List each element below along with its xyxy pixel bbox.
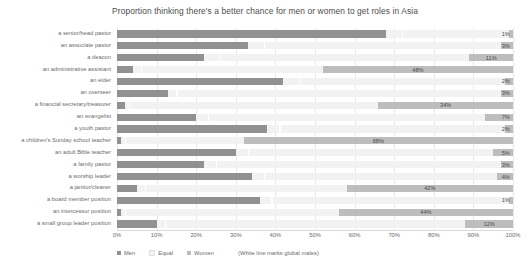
global-males-marker — [248, 149, 249, 156]
x-tick-label: 0% — [113, 232, 121, 238]
bar-segment-men[interactable] — [117, 114, 196, 121]
category-label: a board member position — [47, 197, 111, 203]
legend-item-equal[interactable]: Equal — [149, 250, 173, 256]
bar-segment-equal[interactable] — [168, 90, 501, 97]
bar-value-label: 4% — [502, 174, 510, 180]
bar-value-label: 2% — [502, 126, 510, 132]
category-label: an evangelist — [77, 114, 111, 120]
bar-segment-men[interactable] — [117, 161, 204, 168]
bar-segment-equal[interactable] — [260, 197, 509, 204]
x-tick-label: 50% — [309, 232, 321, 238]
bar-segment-equal[interactable] — [204, 54, 469, 61]
bar-row[interactable]: 4% — [117, 173, 513, 180]
legend-label-equal: Equal — [158, 250, 173, 256]
bar-row[interactable]: 1% — [117, 197, 513, 204]
bar-segment-equal[interactable] — [283, 78, 505, 85]
bar-row[interactable]: 11% — [117, 54, 513, 61]
bar-row[interactable]: 34% — [117, 102, 513, 109]
category-label: an intercessor position — [53, 209, 111, 215]
bar-row[interactable]: 3% — [117, 90, 513, 97]
bar-segment-men[interactable] — [117, 54, 204, 61]
bar-value-label: 5% — [502, 150, 510, 156]
legend-swatch-men-icon — [117, 251, 121, 255]
x-tick-label: 10% — [151, 232, 163, 238]
x-tick-label: 20% — [190, 232, 202, 238]
bar-segment-equal[interactable] — [196, 114, 485, 121]
x-tick-label: 30% — [230, 232, 242, 238]
category-axis-labels: a senior/head pastoran associate pastora… — [0, 28, 114, 230]
chart-title: Proportion thinking there's a better cha… — [0, 6, 530, 16]
bar-row[interactable]: 44% — [117, 209, 513, 216]
bar-row[interactable]: 3% — [117, 161, 513, 168]
bar-row[interactable]: 7% — [117, 114, 513, 121]
bar-segment-equal[interactable] — [248, 42, 501, 49]
legend-item-men[interactable]: Men — [117, 250, 135, 256]
bar-row[interactable]: 2% — [117, 125, 513, 132]
bar-segment-men[interactable] — [117, 30, 386, 37]
bar-row[interactable]: 42% — [117, 185, 513, 192]
bar-segment-men[interactable] — [117, 197, 260, 204]
bar-row[interactable]: 2% — [117, 78, 513, 85]
chart-legend: Men Equal Women (White line marks global… — [117, 246, 513, 260]
global-males-marker — [264, 173, 265, 180]
legend-label-women: Women — [194, 250, 214, 256]
global-males-marker — [279, 125, 280, 132]
bar-row[interactable]: 12% — [117, 220, 513, 227]
bar-value-label: 34% — [440, 102, 451, 108]
bar-segment-equal[interactable] — [236, 149, 493, 156]
bar-segment-men[interactable] — [117, 173, 252, 180]
bar-row[interactable]: 3% — [117, 42, 513, 49]
category-label: an overseer — [80, 90, 111, 96]
bar-row[interactable]: 48% — [117, 66, 513, 73]
plot-area: 1%3%11%48%2%3%34%7%2%68%5%3%4%42%1%44%12… — [117, 28, 513, 230]
bar-segment-equal[interactable] — [386, 30, 509, 37]
bar-segment-men[interactable] — [117, 220, 157, 227]
chart-container: Proportion thinking there's a better cha… — [0, 0, 530, 267]
global-males-marker — [271, 197, 272, 204]
category-label: a financial secretary/treasurer — [35, 102, 111, 108]
bar-row[interactable]: 5% — [117, 149, 513, 156]
category-label: an administrative assistant — [43, 67, 111, 73]
bar-segment-men[interactable] — [117, 102, 125, 109]
bar-segment-men[interactable] — [117, 149, 236, 156]
bar-segment-equal[interactable] — [204, 161, 501, 168]
legend-item-women[interactable]: Women — [187, 250, 214, 256]
bar-segment-equal[interactable] — [121, 137, 244, 144]
bar-segment-equal[interactable] — [133, 66, 323, 73]
global-males-marker — [129, 102, 130, 109]
category-label: a janitor/cleaner — [70, 185, 111, 191]
bar-segment-equal[interactable] — [252, 173, 498, 180]
bar-value-label: 68% — [373, 138, 384, 144]
x-tick-label: 90% — [468, 232, 480, 238]
global-males-marker — [299, 78, 300, 85]
bar-segment-men[interactable] — [117, 78, 283, 85]
bar-rows: 1%3%11%48%2%3%34%7%2%68%5%3%4%42%1%44%12… — [117, 28, 513, 230]
bar-segment-equal[interactable] — [121, 209, 339, 216]
bar-segment-men[interactable] — [117, 90, 168, 97]
global-males-marker — [216, 161, 217, 168]
category-label: a children's Sunday school teacher — [21, 138, 111, 144]
global-males-marker — [165, 220, 166, 227]
bar-segment-men[interactable] — [117, 66, 133, 73]
bar-segment-equal[interactable] — [267, 125, 505, 132]
category-label: an associate pastor — [61, 43, 111, 49]
bar-value-label: 42% — [424, 185, 435, 191]
bar-segment-men[interactable] — [117, 42, 248, 49]
bar-segment-equal[interactable] — [157, 220, 466, 227]
legend-swatch-women-icon — [187, 251, 191, 255]
legend-label-men: Men — [124, 250, 135, 256]
bar-segment-equal[interactable] — [137, 185, 347, 192]
global-males-marker — [208, 114, 209, 121]
x-tick-label: 100% — [506, 232, 521, 238]
bar-row[interactable]: 68% — [117, 137, 513, 144]
global-males-marker — [402, 30, 403, 37]
x-tick-label: 70% — [388, 232, 400, 238]
category-label: a small group leader position — [37, 221, 111, 227]
bar-segment-men[interactable] — [117, 125, 267, 132]
global-males-marker — [125, 137, 126, 144]
bar-segment-men[interactable] — [117, 185, 137, 192]
bar-value-label: 3% — [502, 162, 510, 168]
bar-segment-equal[interactable] — [125, 102, 378, 109]
bar-row[interactable]: 1% — [117, 30, 513, 37]
category-label: an elder — [90, 78, 111, 84]
